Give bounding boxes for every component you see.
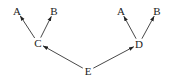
node-b-left: B: [50, 5, 57, 17]
node-b-right: B: [153, 5, 160, 17]
edge-arrow-e-to-c: [43, 46, 83, 68]
node-a-left: A: [13, 5, 21, 17]
edge-arrow-c-to-b1: [41, 16, 52, 37]
tree-diagram: A B C A B D E: [0, 0, 174, 81]
edge-arrow-d-to-b2: [142, 16, 154, 38]
node-c: C: [34, 37, 41, 49]
edge-arrow-e-to-d: [93, 47, 133, 68]
edge-arrow-d-to-a2: [124, 16, 136, 38]
node-a-right: A: [117, 5, 125, 17]
node-d: D: [135, 38, 143, 50]
edge-arrow-c-to-a1: [20, 16, 34, 38]
node-e: E: [85, 65, 92, 77]
